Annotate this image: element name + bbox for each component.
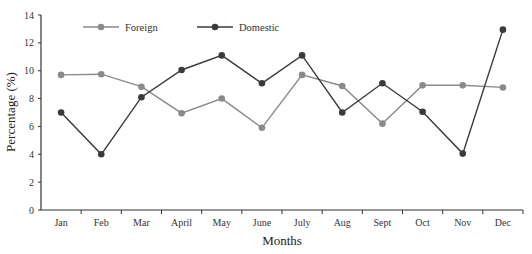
- series-line: [61, 30, 503, 155]
- legend-marker-icon: [98, 24, 105, 31]
- x-tick-label: April: [171, 217, 192, 228]
- data-point: [178, 67, 185, 74]
- x-tick-label: Mar: [133, 217, 150, 228]
- x-axis-title: Months: [262, 233, 302, 248]
- data-point: [98, 71, 105, 78]
- line-chart: 02468101214 JanFebMarAprilMayJuneJulyAug…: [0, 0, 532, 254]
- data-point: [58, 109, 65, 116]
- data-point: [218, 95, 225, 102]
- data-point: [58, 72, 65, 79]
- y-tick-label: 2: [29, 177, 34, 188]
- x-tick-label: May: [213, 217, 231, 228]
- data-point: [299, 72, 306, 79]
- x-tick-label: Oct: [415, 217, 430, 228]
- data-point: [259, 80, 266, 87]
- legend: ForeignDomestic: [83, 22, 280, 33]
- x-tick-label: Sept: [374, 217, 392, 228]
- series-domestic: [58, 26, 506, 157]
- data-point: [98, 151, 105, 158]
- legend-marker-icon: [212, 24, 219, 31]
- data-point: [459, 150, 466, 157]
- x-tick-label: July: [294, 217, 311, 228]
- x-tick-label: Nov: [454, 217, 471, 228]
- data-point: [419, 82, 426, 89]
- x-tick-label: Dec: [495, 217, 512, 228]
- x-tick-label: Feb: [94, 217, 109, 228]
- data-point: [339, 83, 346, 90]
- data-point: [138, 83, 145, 90]
- y-tick-label: 4: [29, 149, 34, 160]
- x-tick-label: Jan: [54, 217, 67, 228]
- data-point: [138, 94, 145, 101]
- data-point: [500, 84, 507, 91]
- y-axis-title: Percentage (%): [3, 72, 18, 152]
- data-point: [379, 120, 386, 127]
- data-point: [379, 80, 386, 87]
- data-point: [419, 109, 426, 116]
- y-tick-label: 8: [29, 93, 34, 104]
- legend-label: Foreign: [125, 22, 158, 33]
- data-point: [459, 82, 466, 89]
- y-tick-label: 6: [29, 121, 34, 132]
- data-point: [259, 125, 266, 132]
- data-point: [500, 26, 507, 33]
- y-tick-label: 12: [24, 37, 34, 48]
- x-tick-label: Aug: [334, 217, 351, 228]
- legend-item-domestic: Domestic: [197, 22, 280, 33]
- data-point: [339, 109, 346, 116]
- data-point: [218, 52, 225, 59]
- y-axis: 02468101214: [24, 10, 41, 216]
- data-point: [299, 52, 306, 59]
- series-line: [61, 74, 503, 128]
- y-tick-label: 10: [24, 65, 34, 76]
- x-tick-label: June: [253, 217, 272, 228]
- legend-label: Domestic: [239, 22, 280, 33]
- data-point: [178, 110, 185, 117]
- y-tick-label: 14: [24, 10, 34, 21]
- series-foreign: [58, 71, 506, 131]
- y-tick-label: 0: [29, 205, 34, 216]
- legend-item-foreign: Foreign: [83, 22, 158, 33]
- x-axis: JanFebMarAprilMayJuneJulyAugSeptOctNovDe…: [41, 210, 523, 228]
- series-layer: [58, 26, 506, 157]
